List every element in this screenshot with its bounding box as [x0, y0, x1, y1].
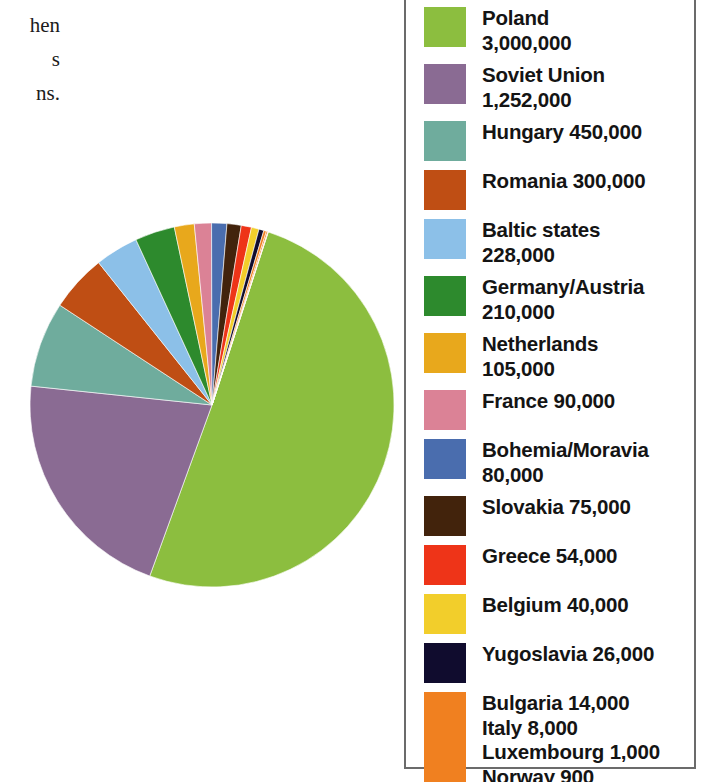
legend-list: Poland 3,000,000Soviet Union 1,252,000Hu… [424, 5, 690, 761]
legend-item[interactable]: Slovakia 75,000 [424, 494, 690, 536]
legend-item-label: Poland 3,000,000 [482, 5, 690, 55]
legend-item-label: Yugoslavia 26,000 [482, 641, 690, 667]
legend-item[interactable]: Poland 3,000,000 [424, 5, 690, 55]
page-root: hen s ns. Poland 3,000,000Soviet Union 1… [0, 0, 703, 782]
legend-item-label: France 90,000 [482, 388, 690, 414]
legend-item[interactable]: France 90,000 [424, 388, 690, 430]
legend-color-swatch [424, 7, 466, 47]
pie-chart-svg [28, 172, 398, 642]
legend-item[interactable]: Netherlands 105,000 [424, 331, 690, 381]
legend-item-label: Germany/Austria 210,000 [482, 274, 690, 324]
legend-color-swatch [424, 64, 466, 104]
pie-slices [30, 223, 394, 587]
legend-item[interactable]: Greece 54,000 [424, 543, 690, 585]
legend-item-label: Greece 54,000 [482, 543, 690, 569]
legend-item[interactable]: Soviet Union 1,252,000 [424, 62, 690, 112]
legend-item-label: Belgium 40,000 [482, 592, 690, 618]
legend-item[interactable]: Baltic states 228,000 [424, 217, 690, 267]
body-text-line-3: ns. [0, 76, 60, 110]
legend-item-label: Bohemia/Moravia 80,000 [482, 437, 690, 487]
legend-item[interactable]: Belgium 40,000 [424, 592, 690, 634]
legend-item[interactable]: Bohemia/Moravia 80,000 [424, 437, 690, 487]
body-text-line-2: s [0, 42, 60, 76]
body-text-line-1: hen [0, 8, 60, 42]
legend-color-swatch [424, 439, 466, 479]
legend-item-label: Slovakia 75,000 [482, 494, 690, 520]
legend-color-swatch [424, 333, 466, 373]
legend-color-swatch [424, 692, 466, 782]
legend-item-label: Bulgaria 14,000 Italy 8,000 Luxembourg 1… [482, 690, 690, 782]
legend-color-swatch [424, 594, 466, 634]
legend-color-swatch [424, 276, 466, 316]
legend-item[interactable]: Germany/Austria 210,000 [424, 274, 690, 324]
pie-chart [28, 172, 398, 642]
legend-item[interactable]: Romania 300,000 [424, 168, 690, 210]
legend-color-swatch [424, 170, 466, 210]
legend-color-swatch [424, 219, 466, 259]
legend-color-swatch [424, 545, 466, 585]
legend-item-label: Soviet Union 1,252,000 [482, 62, 690, 112]
legend-item-label: Netherlands 105,000 [482, 331, 690, 381]
legend-item-label: Romania 300,000 [482, 168, 690, 194]
legend-item[interactable]: Hungary 450,000 [424, 119, 690, 161]
chart-legend: Poland 3,000,000Soviet Union 1,252,000Hu… [404, 0, 696, 769]
legend-color-swatch [424, 496, 466, 536]
legend-item-label: Baltic states 228,000 [482, 217, 690, 267]
legend-color-swatch [424, 121, 466, 161]
legend-item[interactable]: Bulgaria 14,000 Italy 8,000 Luxembourg 1… [424, 690, 690, 782]
legend-color-swatch [424, 390, 466, 430]
page-body-text: hen s ns. [0, 8, 60, 110]
legend-item-label: Hungary 450,000 [482, 119, 690, 145]
legend-color-swatch [424, 643, 466, 683]
legend-item[interactable]: Yugoslavia 26,000 [424, 641, 690, 683]
